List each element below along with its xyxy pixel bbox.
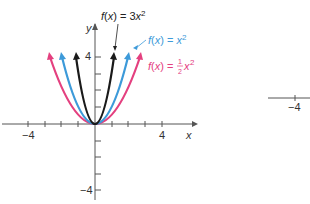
svg-text:2: 2 bbox=[190, 58, 195, 67]
y-tick-label-pos: 4 bbox=[85, 50, 91, 62]
label-x2: f(x) = x2 bbox=[148, 33, 187, 46]
x-axis-label: x bbox=[185, 129, 192, 141]
x-tick-label-pos: 4 bbox=[159, 129, 165, 141]
svg-text:1: 1 bbox=[178, 58, 182, 65]
y-axis-label: y bbox=[85, 22, 93, 34]
label-half: f(x) = bbox=[148, 60, 173, 72]
x-tick-label-neg: −4 bbox=[22, 129, 35, 141]
right-tick-label: −4 bbox=[288, 101, 301, 113]
right-axis-fragment: −4 bbox=[268, 95, 310, 113]
y-axis bbox=[92, 23, 98, 200]
svg-text:x: x bbox=[183, 60, 190, 72]
chart: −4 4 x 4 −4 y f(x) = 3x2 f(x) = x2 f(x) … bbox=[0, 0, 310, 204]
svg-text:2: 2 bbox=[178, 68, 182, 75]
y-tick-label-neg: −4 bbox=[80, 184, 93, 196]
label-3x2: f(x) = 3x2 bbox=[101, 9, 146, 22]
